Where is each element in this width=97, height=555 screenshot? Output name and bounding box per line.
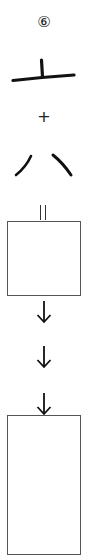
arrow-down-icon xyxy=(35,392,53,416)
component-1-glyph xyxy=(0,55,97,90)
component-2-glyph xyxy=(0,150,97,185)
step-number: ⑥ xyxy=(0,11,88,33)
answer-box-2[interactable] xyxy=(7,415,81,555)
plus-operator: + xyxy=(0,108,88,126)
arrow-down-icon xyxy=(35,300,53,324)
answer-box-1[interactable] xyxy=(7,221,81,296)
arrow-down-icon xyxy=(35,345,53,369)
equals-operator xyxy=(40,205,46,220)
